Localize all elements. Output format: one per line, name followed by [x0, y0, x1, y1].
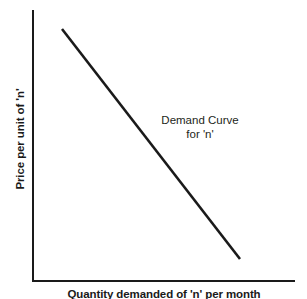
x-axis-label: Quantity demanded of 'n' per month	[33, 288, 295, 299]
demand-curve-line	[0, 0, 307, 299]
y-axis-label: Price per unit of 'n'	[14, 64, 26, 214]
demand-curve-figure: Price per unit of 'n' Quantity demanded …	[0, 0, 307, 299]
demand-curve-annotation-line1: Demand Curve	[161, 114, 238, 126]
demand-curve-annotation: Demand Curve for 'n'	[148, 114, 252, 141]
demand-curve-annotation-line2: for 'n'	[148, 128, 252, 142]
